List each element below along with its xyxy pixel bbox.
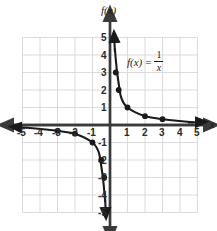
y-tick-label: -1 (98, 138, 107, 148)
y-tick-label: -2 (98, 156, 107, 166)
x-axis-title: x (210, 119, 214, 130)
x-tick-label: -5 (17, 128, 26, 138)
y-tick-label: -4 (98, 191, 107, 201)
x-tick-label: -4 (34, 128, 43, 138)
y-tick-label: 3 (101, 68, 107, 78)
x-tick-label: 2 (142, 128, 148, 138)
data-point (116, 87, 122, 93)
graph-figure: f(x) x f(x) = 1 x -5 -4 -3 -2 -1 1 2 3 4… (0, 0, 217, 231)
data-point (142, 113, 148, 119)
y-tick-label: 5 (101, 33, 107, 43)
fraction-denominator: x (155, 62, 163, 73)
y-tick-label: 4 (101, 51, 107, 61)
y-tick-label: 1 (101, 103, 107, 113)
x-tick-label: 1 (124, 128, 130, 138)
x-tick-label: -3 (52, 128, 61, 138)
equation-equals: = (145, 56, 151, 68)
function-plot (0, 0, 217, 231)
data-point (125, 105, 131, 111)
equation-lhs: f(x) (127, 56, 142, 68)
function-equation-label: f(x) = 1 x (127, 50, 163, 73)
data-point (160, 116, 166, 122)
x-tick-label: -1 (87, 128, 96, 138)
data-point (90, 140, 96, 146)
x-tick-label: -2 (69, 128, 78, 138)
y-tick-label: -5 (98, 208, 107, 218)
equation-fraction: 1 x (154, 50, 163, 73)
x-tick-label: 3 (159, 128, 165, 138)
x-tick-label: 5 (194, 128, 200, 138)
y-axis-title: f(x) (101, 4, 116, 16)
data-point (113, 70, 119, 76)
y-tick-label: 2 (101, 86, 107, 96)
fraction-numerator: 1 (154, 50, 163, 61)
x-tick-label: 4 (177, 128, 183, 138)
y-tick-label: -3 (98, 173, 107, 183)
